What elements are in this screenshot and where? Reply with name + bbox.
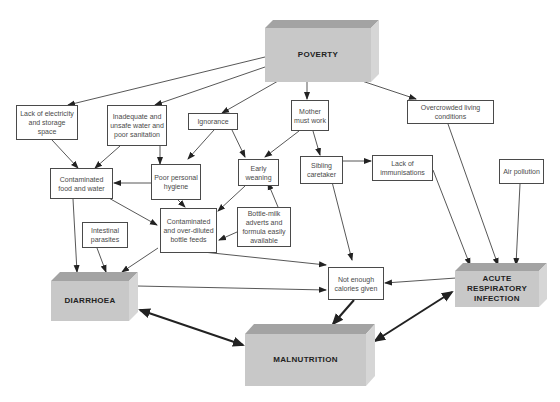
edge-poverty-water [155, 67, 265, 105]
node-poor-hygiene: Poor personal hygiene [151, 164, 201, 200]
node-early-weaning: Early weaning [238, 159, 279, 186]
edge-overcrowded-ari [448, 124, 498, 265]
edge-bottle-calories [203, 252, 326, 265]
edge-calories-malnutrition [333, 300, 354, 324]
node-lack-electricity: Lack of electricity and storage space [16, 105, 78, 140]
node-mother-work: Mother must work [291, 100, 329, 131]
node-intestinal-parasites: Intestinal parasites [82, 222, 128, 248]
ari-block: ACUTE RESPIRATORY INFECTION [455, 263, 547, 307]
edge-mother-sibling [313, 131, 320, 155]
poverty-block: POVERTY [265, 20, 379, 82]
edge-adverts-bottle [219, 232, 237, 240]
node-ignorance: Ignorance [188, 113, 238, 130]
edge-adverts-weaning [268, 183, 278, 207]
node-inadequate-water: Inadequate and unsafe water and poor san… [107, 105, 167, 146]
poverty-label: POVERTY [265, 28, 371, 82]
node-not-enough-calories: Not enough calories given [328, 267, 384, 300]
edge-hygiene-bottle [178, 200, 185, 207]
edge-diarrhoea-malnutrition [140, 310, 243, 345]
malnutrition-block: MALNUTRITION [245, 324, 375, 386]
node-bottle-feeds: Contaminated and over-diluted bottle fee… [160, 208, 217, 253]
node-air-pollution: Air pollution [499, 159, 544, 184]
edge-parasites-diarrhoea [97, 248, 106, 272]
ari-label: ACUTE RESPIRATORY INFECTION [455, 271, 539, 307]
node-overcrowded: Overcrowded living conditions [407, 100, 494, 124]
edge-ignorance-hygiene [188, 130, 214, 159]
edge-mother-weaning [265, 131, 299, 157]
diarrhoea-label: DIARRHOEA [51, 281, 129, 321]
edge-water-contaminated [95, 146, 120, 168]
malnutrition-label: MALNUTRITION [245, 334, 366, 386]
edge-contaminated-bottle [107, 197, 157, 225]
diarrhoea-block: DIARRHOEA [51, 272, 138, 321]
edge-sibling-calories [330, 174, 352, 260]
edge-electricity-contaminated [52, 140, 78, 168]
edge-contaminated-diarrhoea [73, 199, 77, 272]
edge-poverty-ignorance [222, 81, 278, 113]
edge-ari-calories [385, 278, 456, 283]
node-lack-immunisations: Lack of immunisations [372, 155, 433, 181]
edge-poverty-electricity [68, 57, 265, 105]
edge-ari-malnutrition [375, 292, 452, 341]
node-sibling-caretaker: Sibling caretaker [300, 156, 343, 184]
edge-immunisations-ari [433, 170, 470, 265]
node-bottle-adverts: Bottle-milk adverts and formula easily a… [237, 207, 291, 247]
edge-ignorance-weaning [232, 130, 245, 157]
edge-airpollution-ari [516, 184, 520, 265]
edge-diarrhoea-calories [137, 286, 326, 290]
node-contaminated-food: Contaminated food and water [50, 168, 113, 199]
edge-bottle-diarrhoea [122, 248, 158, 272]
edge-poverty-overcrowded [362, 81, 416, 99]
